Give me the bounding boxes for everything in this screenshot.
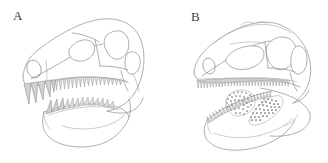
maxillary-teeth-a	[55, 77, 122, 90]
antorbital-fenestra-b	[226, 46, 264, 70]
skull-drawing-a	[0, 0, 164, 163]
figure-root: A	[0, 0, 328, 163]
antorbital-fenestra-a	[69, 40, 95, 61]
stippled-region-upper-outline-b	[226, 90, 255, 116]
retroarticular-b	[285, 115, 298, 126]
premaxillary-teeth-a	[24, 80, 55, 104]
lacrimal-bar-a	[95, 40, 100, 66]
panel-b: B	[164, 0, 328, 163]
skull-drawing-b	[164, 0, 328, 163]
dentary-teeth-a	[46, 97, 114, 114]
external-naris-b	[201, 57, 217, 76]
infratemporal-fenestra-b	[291, 46, 307, 74]
infratemporal-fenestra-a	[125, 52, 140, 74]
surangular-line-a	[62, 112, 127, 129]
panel-a: A	[0, 0, 164, 163]
jugal-bar-a	[100, 66, 128, 70]
dentary-alveolar-line-b	[210, 96, 272, 122]
premaxilla-suture-a	[46, 60, 47, 84]
crest-notch-1-b	[241, 22, 253, 25]
stippled-region-lower-b	[250, 98, 280, 121]
maxillary-teeth-b	[197, 78, 289, 88]
dentary-symphysis-a	[44, 112, 50, 129]
angular-line-b	[214, 119, 292, 138]
orbit-a	[104, 31, 129, 59]
squamosal-line-a	[133, 74, 139, 92]
